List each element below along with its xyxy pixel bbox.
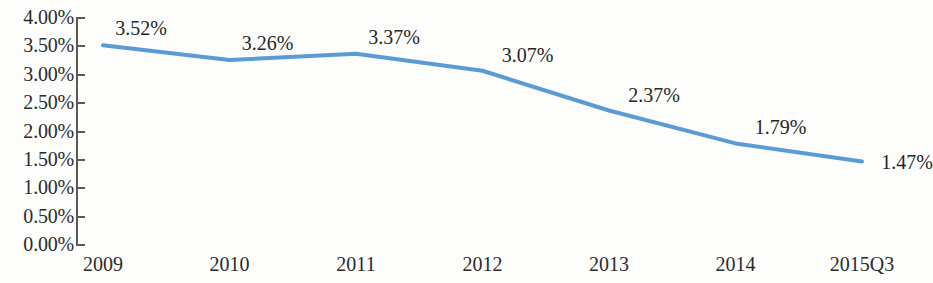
data-point-label: 1.79% [755, 117, 807, 138]
data-point-label: 3.26% [242, 33, 294, 54]
series-line-polyline [103, 45, 862, 161]
data-point-label: 3.52% [115, 18, 167, 39]
data-point-label: 3.37% [368, 27, 420, 48]
data-point-label: 1.47% [881, 152, 933, 173]
data-point-label: 3.07% [502, 45, 554, 66]
data-point-label: 2.37% [628, 85, 680, 106]
